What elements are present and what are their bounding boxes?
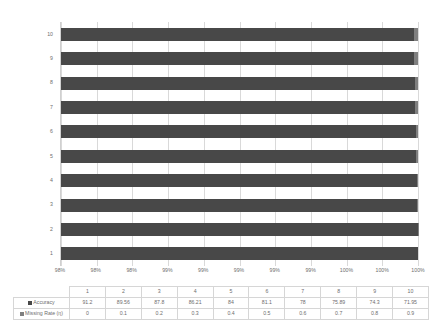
table-cell: 91.2 xyxy=(70,298,106,309)
bar-row-2 xyxy=(61,217,418,241)
bar-stack xyxy=(61,247,418,260)
bar-segment-accuracy-5 xyxy=(61,150,416,163)
table-cell: 81.1 xyxy=(249,298,285,309)
table-column-header-5: 5 xyxy=(213,287,249,298)
x-axis-tick-7: 99% xyxy=(305,268,315,273)
bar-row-3 xyxy=(61,193,418,217)
bar-stack xyxy=(61,77,418,90)
bar-series-container xyxy=(61,22,418,266)
table-corner-cell xyxy=(14,287,70,298)
table-cell: 0.7 xyxy=(321,309,357,320)
y-axis-tick-8: 8 xyxy=(34,71,56,95)
bar-segment-missing-rate-5 xyxy=(416,150,418,163)
x-axis-tick-labels: 98%98%98%99%99%99%99%99%100%100%100% xyxy=(60,266,418,280)
bar-segment-accuracy-2 xyxy=(61,223,418,236)
bar-segment-accuracy-8 xyxy=(61,77,415,90)
table-cell: 0.2 xyxy=(141,309,177,320)
plot-wrapper: 10987654321 98%98%98%99%99%99%99%99%100%… xyxy=(0,10,442,272)
table-column-header-10: 10 xyxy=(393,287,429,298)
table-column-header-1: 1 xyxy=(70,287,106,298)
y-axis-tick-6: 6 xyxy=(34,120,56,144)
table-cell: 86.21 xyxy=(177,298,213,309)
bar-segment-accuracy-6 xyxy=(61,125,416,138)
table-cell: 71.95 xyxy=(393,298,429,309)
bar-row-6 xyxy=(61,120,418,144)
table-cell: 0 xyxy=(70,309,106,320)
y-axis-tick-1: 1 xyxy=(34,242,56,266)
table-row-label: Accuracy xyxy=(33,299,54,305)
y-axis-tick-4: 4 xyxy=(34,168,56,192)
y-axis-tick-9: 9 xyxy=(34,46,56,70)
x-axis-tick-0: 98% xyxy=(55,268,65,273)
table-column-header-8: 8 xyxy=(321,287,357,298)
y-axis-tick-2: 2 xyxy=(34,217,56,241)
y-axis-tick-labels: 10987654321 xyxy=(34,22,56,266)
table-cell: 0.9 xyxy=(393,309,429,320)
gridline xyxy=(418,22,419,266)
stacked-bar-chart: 10987654321 98%98%98%99%99%99%99%99%100%… xyxy=(0,0,442,332)
table-cell: 0.1 xyxy=(105,309,141,320)
bar-segment-accuracy-1 xyxy=(61,247,418,260)
bar-row-4 xyxy=(61,168,418,192)
bar-stack xyxy=(61,28,418,41)
table-cell: 84 xyxy=(213,298,249,309)
x-axis-tick-2: 98% xyxy=(126,268,136,273)
accuracy-legend-swatch xyxy=(28,301,32,305)
table-cell: 0.3 xyxy=(177,309,213,320)
x-axis-tick-3: 99% xyxy=(162,268,172,273)
bar-segment-missing-rate-9 xyxy=(414,52,418,65)
bar-segment-accuracy-4 xyxy=(61,174,417,187)
bar-row-5 xyxy=(61,144,418,168)
bar-stack xyxy=(61,101,418,114)
bar-stack xyxy=(61,125,418,138)
y-axis-tick-3: 3 xyxy=(34,193,56,217)
bar-stack xyxy=(61,223,418,236)
table-cell: 0.5 xyxy=(249,309,285,320)
table-cell: 89.56 xyxy=(105,298,141,309)
table-row-label: Missing Rate (η) xyxy=(25,310,63,316)
table-cell: 78 xyxy=(285,298,321,309)
x-axis-tick-5: 99% xyxy=(234,268,244,273)
table-row: Missing Rate (η)00.10.20.30.40.50.60.70.… xyxy=(14,309,429,320)
bar-row-8 xyxy=(61,71,418,95)
bar-row-9 xyxy=(61,46,418,70)
table-cell: 75.89 xyxy=(321,298,357,309)
table-cell: 0.6 xyxy=(285,309,321,320)
table-header-row: 12345678910 xyxy=(14,287,429,298)
x-axis-tick-8: 100% xyxy=(340,268,353,273)
table-cell: 87.8 xyxy=(141,298,177,309)
bar-segment-missing-rate-10 xyxy=(414,28,418,41)
table-column-header-3: 3 xyxy=(141,287,177,298)
y-axis-tick-7: 7 xyxy=(34,95,56,119)
bar-segment-missing-rate-6 xyxy=(416,125,418,138)
bar-stack xyxy=(61,199,418,212)
table-column-header-9: 9 xyxy=(357,287,393,298)
bar-stack xyxy=(61,174,418,187)
table-column-header-4: 4 xyxy=(177,287,213,298)
missing-rate-legend-swatch xyxy=(20,312,24,316)
y-axis-tick-5: 5 xyxy=(34,144,56,168)
table-row-header: Missing Rate (η) xyxy=(14,309,70,320)
data-table: 12345678910 Accuracy91.289.5687.886.2184… xyxy=(13,286,429,320)
bar-segment-missing-rate-3 xyxy=(417,199,418,212)
bar-segment-missing-rate-4 xyxy=(417,174,418,187)
bar-stack xyxy=(61,52,418,65)
table-row-header: Accuracy xyxy=(14,298,70,309)
bar-segment-accuracy-9 xyxy=(61,52,414,65)
table-column-header-2: 2 xyxy=(105,287,141,298)
bar-row-7 xyxy=(61,95,418,119)
bar-row-1 xyxy=(61,242,418,266)
x-axis-tick-6: 99% xyxy=(270,268,280,273)
table-cell: 74.3 xyxy=(357,298,393,309)
x-axis-tick-1: 98% xyxy=(91,268,101,273)
table-row: Accuracy91.289.5687.886.218481.17875.897… xyxy=(14,298,429,309)
x-axis-tick-9: 100% xyxy=(376,268,389,273)
bar-segment-missing-rate-8 xyxy=(415,77,418,90)
table-column-header-6: 6 xyxy=(249,287,285,298)
plot-area xyxy=(60,22,418,266)
x-axis-tick-10: 100% xyxy=(411,268,424,273)
bar-row-10 xyxy=(61,22,418,46)
bar-segment-accuracy-7 xyxy=(61,101,415,114)
y-axis-tick-10: 10 xyxy=(34,22,56,46)
table-body: Accuracy91.289.5687.886.218481.17875.897… xyxy=(14,298,429,320)
